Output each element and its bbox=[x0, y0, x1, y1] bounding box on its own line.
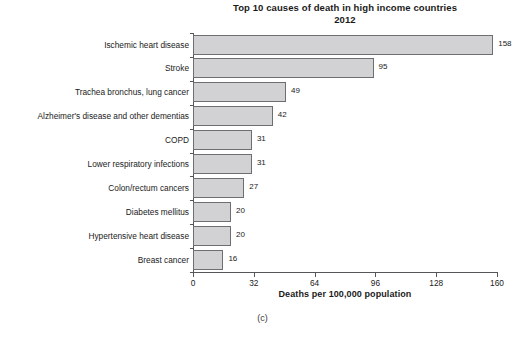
plot-area: 158954942313127202016 bbox=[193, 33, 497, 272]
x-axis-tick bbox=[497, 273, 498, 277]
figure-caption: (c) bbox=[0, 313, 525, 323]
bar-row: 20 bbox=[193, 224, 497, 248]
category-label: Alzheimer's disease and other dementias bbox=[0, 111, 189, 121]
bar-row: 95 bbox=[193, 57, 497, 81]
category-label: COPD bbox=[0, 135, 189, 145]
x-axis-tick-label: 96 bbox=[371, 278, 380, 288]
x-axis-tick-label: 160 bbox=[490, 278, 504, 288]
bar-row: 16 bbox=[193, 248, 497, 272]
bar-value-label: 27 bbox=[249, 182, 258, 191]
x-axis-tick bbox=[254, 273, 255, 277]
x-axis-tick-label: 0 bbox=[191, 278, 196, 288]
x-axis-tick-label: 64 bbox=[310, 278, 319, 288]
category-label: Stroke bbox=[0, 63, 189, 73]
chart-title-line1: Top 10 causes of death in high income co… bbox=[233, 2, 457, 13]
bar bbox=[193, 202, 231, 222]
bar-value-label: 20 bbox=[236, 206, 245, 215]
x-axis-tick bbox=[436, 273, 437, 277]
x-axis-tick bbox=[315, 273, 316, 277]
bar-value-label: 49 bbox=[291, 86, 300, 95]
bar bbox=[193, 250, 223, 270]
category-label: Hypertensive heart disease bbox=[0, 231, 189, 241]
bar-value-label: 95 bbox=[379, 62, 388, 71]
figure-panel: Top 10 causes of death in high income co… bbox=[0, 0, 525, 338]
bar-row: 42 bbox=[193, 105, 497, 129]
x-axis-title: Deaths per 100,000 population bbox=[193, 289, 497, 299]
bar-value-label: 31 bbox=[257, 134, 266, 143]
x-axis-tick-label: 128 bbox=[429, 278, 443, 288]
bar-value-label: 31 bbox=[257, 158, 266, 167]
chart-title-line2: 2012 bbox=[193, 14, 497, 26]
category-label: Lower respiratory infections bbox=[0, 159, 189, 169]
bar bbox=[193, 130, 252, 150]
bar-row: 49 bbox=[193, 81, 497, 105]
bar bbox=[193, 106, 273, 126]
bar bbox=[193, 82, 286, 102]
bar bbox=[193, 154, 252, 174]
category-label: Diabetes mellitus bbox=[0, 207, 189, 217]
bar bbox=[193, 58, 374, 78]
bar-row: 158 bbox=[193, 33, 497, 57]
bar bbox=[193, 35, 493, 55]
bar-row: 31 bbox=[193, 129, 497, 153]
chart-title: Top 10 causes of death in high income co… bbox=[193, 2, 497, 26]
bar-row: 31 bbox=[193, 153, 497, 177]
bar-value-label: 42 bbox=[278, 110, 287, 119]
bar-row: 27 bbox=[193, 176, 497, 200]
bar bbox=[193, 178, 244, 198]
bar-value-label: 16 bbox=[228, 254, 237, 263]
x-axis-line bbox=[193, 272, 498, 273]
bar-value-label: 20 bbox=[236, 230, 245, 239]
category-label: Trachea bronchus, lung cancer bbox=[0, 87, 189, 97]
category-label: Colon/rectum cancers bbox=[0, 183, 189, 193]
x-axis-tick bbox=[193, 273, 194, 277]
bar-row: 20 bbox=[193, 200, 497, 224]
category-label: Breast cancer bbox=[0, 255, 189, 265]
x-axis-tick bbox=[375, 273, 376, 277]
bar bbox=[193, 226, 231, 246]
category-label: Ischemic heart disease bbox=[0, 40, 189, 50]
x-axis-tick-label: 32 bbox=[249, 278, 258, 288]
bar-value-label: 158 bbox=[498, 39, 511, 48]
